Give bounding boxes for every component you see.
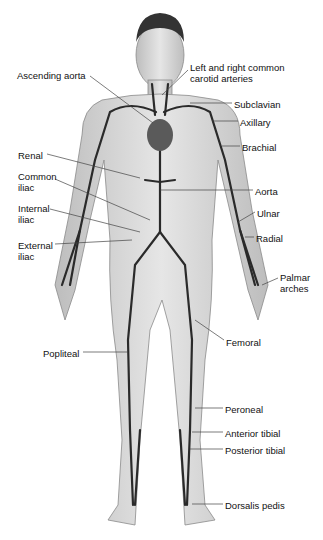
label-aorta: Aorta [255,186,278,197]
label-brachial: Brachial [242,142,276,153]
label-subclavian: Subclavian [234,99,280,110]
label-posterior-tibial: Posterior tibial [225,445,285,456]
label-popliteal: Popliteal [43,348,79,359]
label-palmar-2: arches [280,283,309,294]
label-carotid-1: Left and right common [190,62,285,73]
label-peroneal: Peroneal [225,404,263,415]
label-femoral: Femoral [226,337,261,348]
label-internal-iliac-1: Internal [18,203,50,214]
label-axillary: Axillary [240,117,271,128]
label-internal-iliac-2: iliac [18,214,34,225]
label-carotid-2: carotid arteries [190,73,253,84]
label-ascending-aorta: Ascending aorta [17,70,86,81]
label-dorsalis-pedis: Dorsalis pedis [225,500,285,511]
label-external-iliac-1: External [18,240,53,251]
label-renal: Renal [18,150,43,161]
label-radial: Radial [256,233,283,244]
heart [147,119,173,151]
label-common-iliac-1: Common [18,171,57,182]
label-external-iliac-2: iliac [18,251,34,262]
label-common-iliac-2: iliac [18,182,34,193]
label-anterior-tibial: Anterior tibial [225,428,280,439]
label-palmar-1: Palmar [280,272,310,283]
label-ulnar: Ulnar [257,208,280,219]
arterial-system-figure [0,0,323,540]
